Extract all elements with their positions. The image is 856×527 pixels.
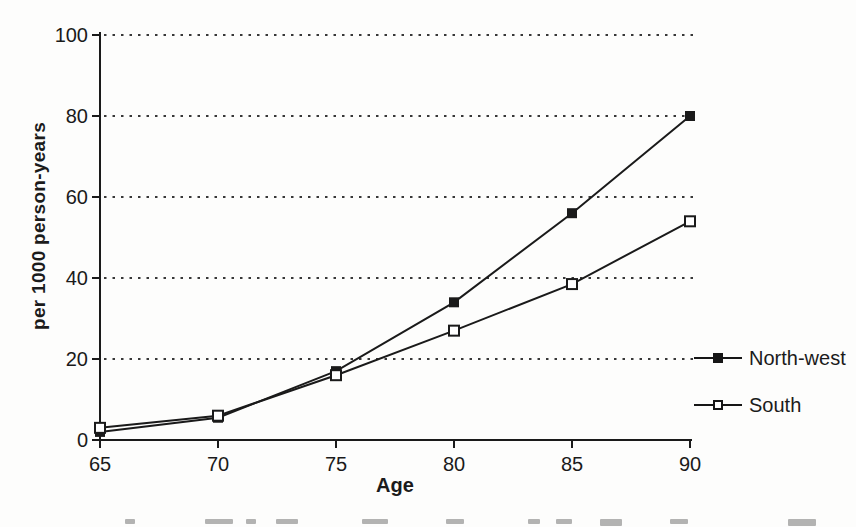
y-tick-label: 40: [66, 267, 88, 289]
chart-legend: North-west South: [694, 352, 846, 446]
data-point-filled-square: [685, 111, 695, 121]
y-tick-label: 20: [66, 348, 88, 370]
data-point-open-square: [685, 216, 695, 226]
data-point-open-square: [95, 423, 105, 433]
series-line-north-west: [100, 116, 690, 432]
cropped-caption-fragment: [0, 517, 856, 527]
open-square-marker-icon: [694, 399, 742, 412]
x-tick-label: 90: [679, 453, 701, 475]
filled-square-marker-icon: [694, 352, 742, 365]
x-tick-label: 70: [207, 453, 229, 475]
legend-item-north-west: North-west: [694, 352, 846, 365]
x-tick-label: 75: [325, 453, 347, 475]
x-tick-label: 65: [89, 453, 111, 475]
data-point-open-square: [567, 279, 577, 289]
legend-item-south: South: [694, 399, 846, 412]
legend-label-north-west: North-west: [749, 347, 846, 370]
data-point-open-square: [213, 411, 223, 421]
line-chart-plot: 020406080100657075808590: [0, 0, 856, 527]
data-point-filled-square: [449, 297, 459, 307]
x-tick-label: 80: [443, 453, 465, 475]
legend-label-south: South: [749, 394, 801, 417]
y-tick-label: 60: [66, 186, 88, 208]
x-axis-title: Age: [376, 474, 414, 497]
data-point-open-square: [449, 326, 459, 336]
y-tick-label: 80: [66, 105, 88, 127]
series-line-south: [100, 221, 690, 428]
y-tick-label: 0: [77, 429, 88, 451]
x-tick-label: 85: [561, 453, 583, 475]
y-axis-title: per 1000 person-years: [28, 122, 50, 330]
data-point-filled-square: [567, 208, 577, 218]
y-tick-label: 100: [55, 24, 88, 46]
data-point-open-square: [331, 370, 341, 380]
figure-canvas: 020406080100657075808590 per 1000 person…: [0, 0, 856, 527]
